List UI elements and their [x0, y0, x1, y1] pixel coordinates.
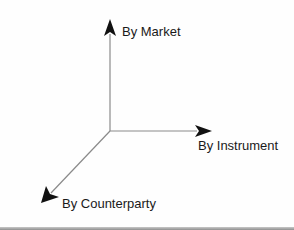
arrow-right-icon [195, 125, 212, 137]
arrow-up-icon [104, 19, 116, 36]
instrument-axis-label: By Instrument [198, 138, 278, 153]
diagram-canvas: By Market By Instrument By Counterparty [0, 0, 294, 230]
bottom-border-rule [0, 227, 294, 230]
counterparty-axis-label: By Counterparty [62, 196, 156, 211]
market-axis-label: By Market [122, 24, 181, 39]
arrow-down-left-icon [41, 186, 59, 203]
counterparty-axis-line [51, 131, 110, 193]
